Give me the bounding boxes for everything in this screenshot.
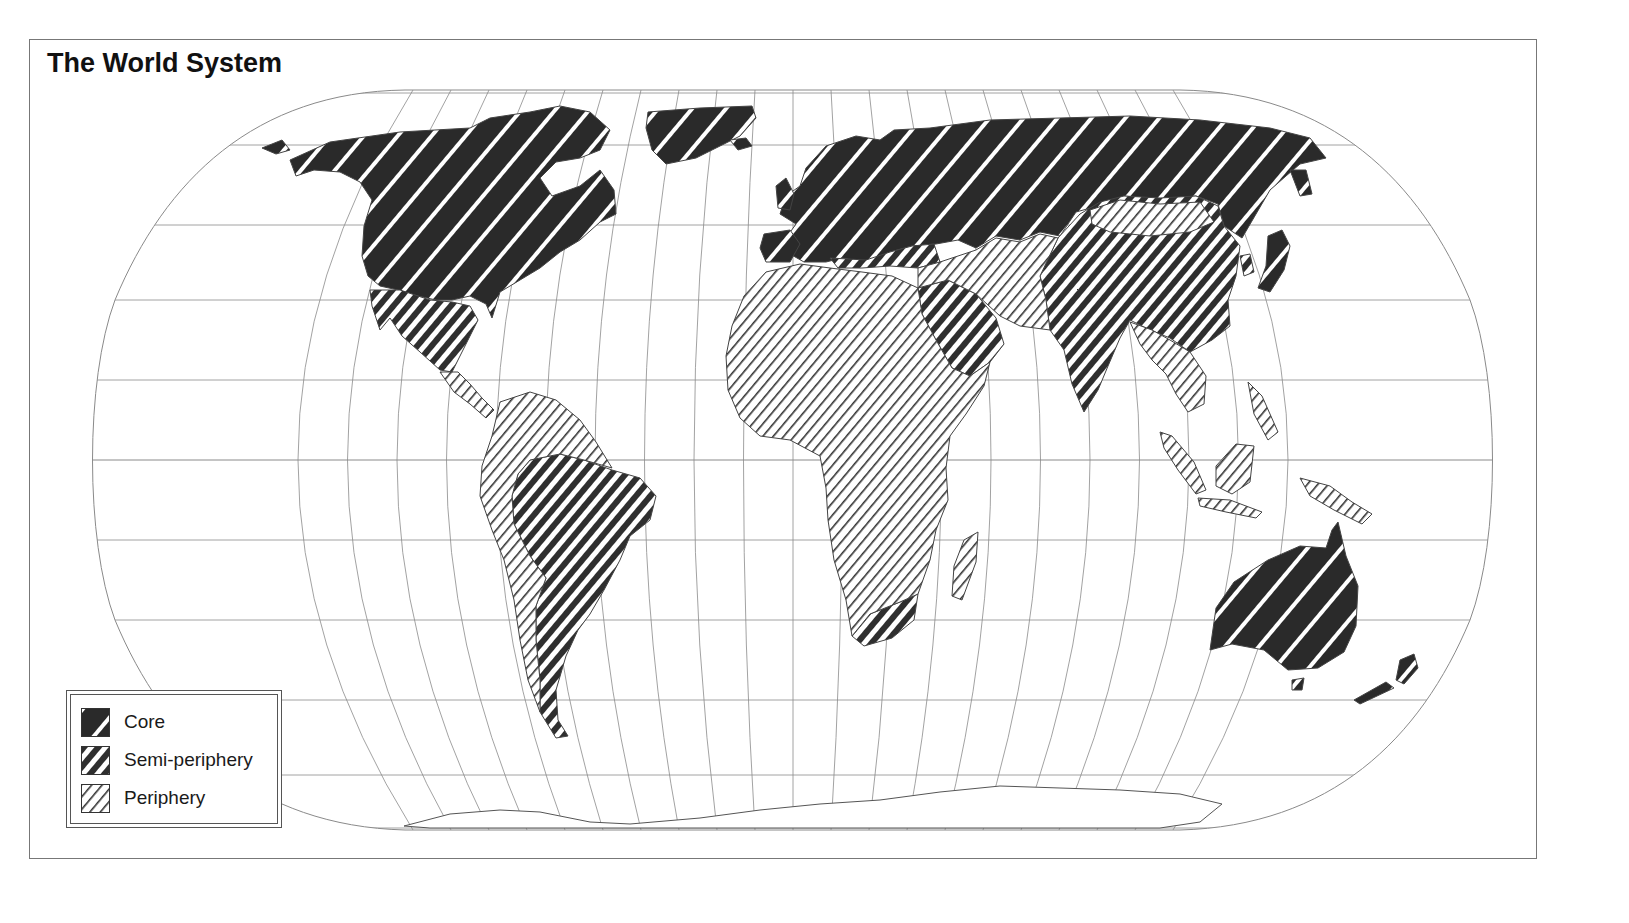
legend-item-core: Core <box>81 707 165 737</box>
legend-item-semi-periphery: Semi-periphery <box>81 745 253 775</box>
region-sumatra-peri <box>1160 432 1206 494</box>
region-uk-core <box>776 178 794 210</box>
region-antarctica <box>404 786 1222 828</box>
region-tasmania-core <box>1292 678 1304 690</box>
legend-label-core: Core <box>124 711 165 733</box>
region-alaska-tip <box>262 140 290 154</box>
region-japan-core <box>1258 230 1290 292</box>
region-greenland-core <box>646 106 756 164</box>
legend-item-periphery: Periphery <box>81 783 205 813</box>
region-north-america-core <box>290 106 616 318</box>
region-korea-semi <box>1240 254 1254 276</box>
region-borneo-peri <box>1216 444 1254 494</box>
region-new-guinea-peri <box>1300 478 1372 524</box>
region-philippines-peri <box>1248 382 1278 440</box>
region-iberia-core <box>760 230 800 262</box>
core-swatch-icon <box>81 708 110 737</box>
semi-periphery-swatch-icon <box>81 746 110 775</box>
legend: Core Semi-periphery Periphery <box>66 690 282 828</box>
region-new-zealand-core <box>1354 654 1418 704</box>
legend-label-periphery: Periphery <box>124 787 205 809</box>
region-iceland-core <box>730 138 752 150</box>
region-far-east-core <box>1290 170 1312 196</box>
periphery-swatch-icon <box>81 784 110 813</box>
legend-label-semi-periphery: Semi-periphery <box>124 749 253 771</box>
region-madagascar-peri <box>952 532 978 600</box>
region-mexico-semi <box>370 290 478 372</box>
region-australia-core <box>1210 522 1358 670</box>
region-java-peri <box>1198 498 1262 518</box>
